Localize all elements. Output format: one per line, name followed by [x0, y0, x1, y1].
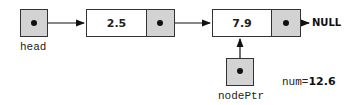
- num-prefix: num=: [282, 76, 308, 88]
- head-pointer-dot: [31, 20, 37, 26]
- node-2-data: 7.9: [212, 9, 272, 37]
- num-value: 12.6: [308, 75, 335, 88]
- nodeptr-dot: [237, 68, 243, 74]
- num-annotation: num=12.6: [282, 71, 336, 89]
- node-1-next-dot: [157, 20, 163, 26]
- null-label: NULL: [312, 17, 341, 28]
- head-label: head: [20, 41, 46, 53]
- nodeptr-label: nodePtr: [218, 90, 264, 102]
- node-1-data: 2.5: [86, 9, 147, 37]
- node-2-next-dot: [283, 20, 289, 26]
- arrows-layer: [0, 0, 364, 105]
- node-2-value: 7.9: [232, 17, 252, 30]
- linked-list-diagram: head 2.5 7.9 NULL nodePtr num=12.6: [0, 0, 364, 105]
- node-1-value: 2.5: [107, 17, 127, 30]
